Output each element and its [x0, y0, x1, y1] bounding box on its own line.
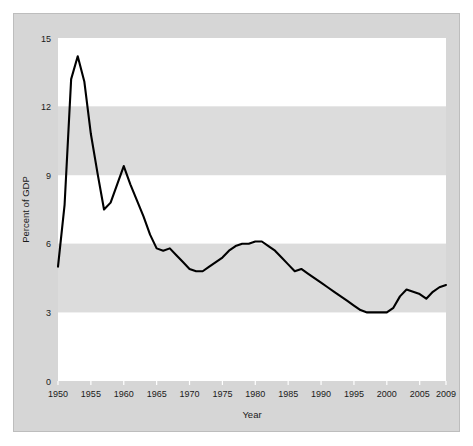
band-3-6 — [58, 244, 446, 313]
x-tick-label: 1950 — [48, 389, 68, 399]
x-tick-label: 1965 — [147, 389, 167, 399]
figure-container: 03691215 1950195519601965197019751980198… — [0, 0, 473, 446]
x-axis-ticks: 1950195519601965197019751980198519901995… — [48, 381, 456, 399]
y-tick-label: 3 — [46, 308, 51, 318]
x-tick-label: 1985 — [278, 389, 298, 399]
chart-panel: 03691215 1950195519601965197019751980198… — [13, 13, 460, 432]
x-tick-label: 1980 — [245, 389, 265, 399]
y-axis-title: Percent of GDP — [20, 176, 31, 243]
x-tick-label: 2009 — [436, 389, 456, 399]
band-9-12 — [58, 107, 446, 176]
y-tick-label: 6 — [46, 239, 51, 249]
y-tick-label: 0 — [46, 377, 51, 387]
x-tick-label: 2000 — [377, 389, 397, 399]
x-tick-label: 1990 — [311, 389, 331, 399]
x-tick-label: 1970 — [180, 389, 200, 399]
x-axis-title: Year — [242, 409, 261, 420]
y-axis-ticks: 03691215 — [41, 34, 51, 387]
y-tick-label: 15 — [41, 34, 51, 44]
background-bands — [58, 38, 446, 381]
x-tick-label: 1955 — [81, 389, 101, 399]
y-tick-label: 12 — [41, 102, 51, 112]
x-tick-label: 1995 — [344, 389, 364, 399]
x-tick-label: 1960 — [114, 389, 134, 399]
line-chart: 03691215 1950195519601965197019751980198… — [14, 14, 459, 431]
x-tick-label: 2005 — [410, 389, 430, 399]
band-12-15 — [58, 38, 446, 107]
y-tick-label: 9 — [46, 171, 51, 181]
band-0-3 — [58, 312, 446, 381]
x-tick-label: 1975 — [212, 389, 232, 399]
